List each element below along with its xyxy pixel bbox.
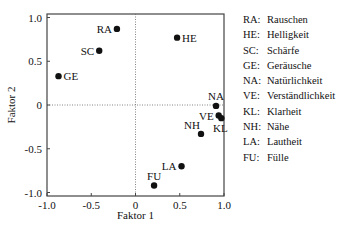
point-label: NA [208,90,224,102]
data-point-kl: KL [213,115,228,134]
data-point-ra: RA [97,23,120,35]
legend-name: Fülle [267,150,289,165]
legend-code: HE: [243,27,267,42]
legend-item: NA:Natürlichkeit [243,73,335,88]
y-tick-label: -0.5 [25,143,43,155]
data-point-ge: GE [55,70,78,82]
data-points: RAHESCGENAVEKLNHLAFU [55,23,228,189]
legend-code: LA: [243,134,267,149]
legend-code: VE: [243,88,267,103]
x-tick-label: -0.5 [83,199,101,211]
legend-code: RA: [243,12,267,27]
y-axis-ticks: 1.00.50-0.5-1.0 [25,12,50,199]
point-label: GE [64,70,79,82]
data-point-he: HE [174,32,197,44]
legend-item: FU:Fülle [243,150,335,165]
zero-lines [47,14,224,196]
legend-code: GE: [243,58,267,73]
legend-name: Rauschen [267,12,308,27]
point-marker [213,103,219,109]
legend-name: Nähe [267,119,289,134]
legend-code: SC: [243,43,267,58]
point-marker [114,26,120,32]
point-label: HE [182,32,197,44]
data-point-ve: VE [199,110,222,122]
legend-code: NH: [243,119,267,134]
legend-item: NH:Nähe [243,119,335,134]
legend-item: RA:Rauschen [243,12,335,27]
legend-name: Geräusche [267,58,311,73]
legend-name: Verständlichkeit [267,88,335,103]
legend-item: VE:Verständlichkeit [243,88,335,103]
y-axis-label: Faktor 2 [5,87,17,124]
point-marker [174,34,180,40]
y-tick-label: 0 [37,99,43,111]
data-point-na: NA [208,90,224,109]
legend-name: Helligkeit [267,27,309,42]
y-tick-label: 0.5 [28,55,42,67]
y-tick-label: 1.0 [28,12,42,24]
legend-name: Natürlichkeit [267,73,322,88]
legend-name: Schärfe [267,43,299,58]
point-marker [178,163,184,169]
legend-item: HE:Helligkeit [243,27,335,42]
legend-item: KL:Klarheit [243,104,335,119]
point-marker [55,73,61,79]
legend-code: FU: [243,150,267,165]
legend: RA:RauschenHE:HelligkeitSC:SchärfeGE:Ger… [243,12,335,165]
legend-name: Lautheit [267,134,302,149]
data-point-la: LA [162,160,185,172]
legend-code: NA: [243,73,267,88]
point-label: VE [199,110,214,122]
data-point-sc: SC [81,45,103,57]
x-tick-label: -1.0 [38,199,56,211]
x-tick-label: 1.0 [217,199,231,211]
x-axis-label: Faktor 1 [117,209,154,221]
point-marker [151,182,157,188]
point-label: NH [184,119,200,131]
point-marker [198,131,204,137]
data-point-nh: NH [184,119,204,137]
legend-item: GE:Geräusche [243,58,335,73]
point-marker [96,48,102,54]
point-marker [218,115,224,121]
y-tick-label: -1.0 [25,187,43,199]
point-label: LA [162,160,177,172]
x-tick-label: 0.5 [173,199,187,211]
point-label: KL [213,122,228,134]
point-label: FU [147,170,161,182]
legend-name: Klarheit [267,104,301,119]
legend-code: KL: [243,104,267,119]
point-label: RA [97,23,112,35]
legend-item: SC:Schärfe [243,43,335,58]
legend-item: LA:Lautheit [243,134,335,149]
point-label: SC [81,45,94,57]
data-point-fu: FU [147,170,161,189]
